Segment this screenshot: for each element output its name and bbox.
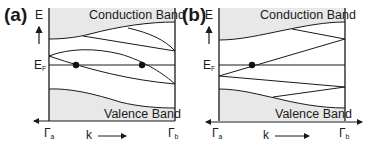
band-line (292, 29, 345, 39)
energy-axis-label: E (35, 8, 43, 22)
valence-band-label: Valence Band (104, 107, 181, 121)
band-line (219, 76, 345, 87)
conduction-band-label: Conduction Band (260, 8, 356, 22)
conduction-band-label: Conduction Band (89, 8, 185, 22)
panel-label-a: (a) (4, 4, 27, 25)
panel-b: (b) E EF Conduction Band Valence Band Γa… (182, 4, 362, 142)
gamma-a-label: Γa (212, 126, 223, 140)
fermi-crossing-dot (73, 62, 79, 68)
panel-label-b: (b) (182, 4, 206, 25)
band-line (49, 50, 175, 84)
k-label: k (263, 128, 270, 142)
fermi-crossing-dot (139, 62, 145, 68)
band-line (83, 36, 175, 51)
gamma-b-label: Γb (339, 126, 350, 140)
band-line (273, 87, 345, 97)
gamma-b-label: Γb (168, 126, 179, 140)
fermi-label: EF (34, 58, 46, 72)
energy-axis-label: E (205, 8, 213, 22)
fermi-label: EF (203, 58, 215, 72)
gamma-a-label: Γa (44, 126, 55, 140)
panel-a: (a) E EF Conduction Band Valence Band Γa… (4, 4, 185, 142)
band-structure-diagram: (a) E EF Conduction Band Valence Band Γa… (0, 0, 368, 145)
band-line (219, 39, 345, 76)
valence-band-label: Valence Band (275, 107, 352, 121)
fermi-crossing-dot (249, 62, 255, 68)
k-label: k (86, 128, 93, 142)
